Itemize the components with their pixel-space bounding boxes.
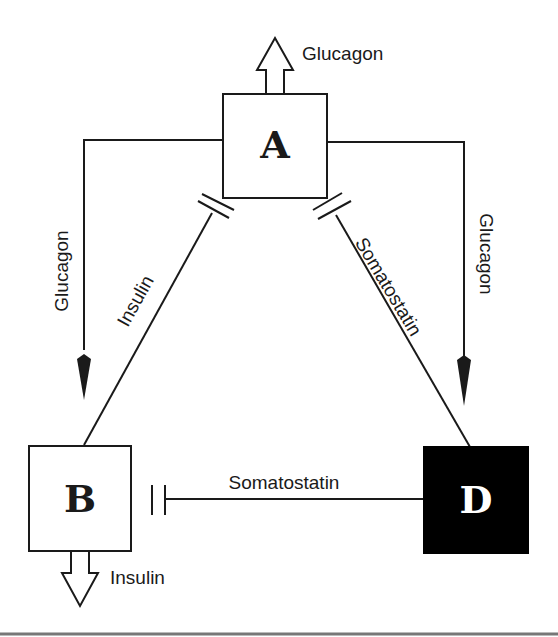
edge-a-to-d-line xyxy=(327,142,464,356)
edge-d-to-a-label: Somatostatin xyxy=(351,234,426,340)
edge-d-to-b: Somatostatin xyxy=(152,472,424,515)
cell-d: D xyxy=(424,447,528,553)
cell-d-label: D xyxy=(460,477,493,522)
cell-b-label: B xyxy=(64,476,96,521)
edge-a-to-b: Glucagon xyxy=(51,140,223,400)
inhibit-bar-icon xyxy=(198,201,229,218)
glucagon-secretion-arrow: Glucagon xyxy=(257,38,383,94)
edge-d-to-a: Somatostatin xyxy=(313,193,470,447)
islet-diagram: A Glucagon Glucagon Glucagon Insulin Som… xyxy=(0,0,558,637)
edge-b-to-a-line xyxy=(84,213,212,445)
edge-a-to-d: Glucagon xyxy=(327,142,497,406)
edge-b-to-a: Insulin xyxy=(84,194,234,445)
cell-b: B xyxy=(29,446,131,551)
hollow-arrow-up-icon xyxy=(257,38,293,94)
edge-a-to-b-label: Glucagon xyxy=(51,230,72,311)
edge-a-to-d-label: Glucagon xyxy=(476,213,497,294)
edge-d-to-b-label: Somatostatin xyxy=(229,472,340,493)
arrowhead-icon xyxy=(457,355,471,406)
cell-a-label: A xyxy=(259,122,290,167)
edge-b-to-a-label: Insulin xyxy=(113,272,158,330)
hollow-arrow-down-icon xyxy=(62,551,98,606)
insulin-secretion-arrow: Insulin xyxy=(62,551,165,606)
arrowhead-icon xyxy=(77,354,91,400)
insulin-secretion-label: Insulin xyxy=(110,567,165,588)
cell-a: A xyxy=(223,94,327,198)
glucagon-secretion-label: Glucagon xyxy=(302,43,383,64)
